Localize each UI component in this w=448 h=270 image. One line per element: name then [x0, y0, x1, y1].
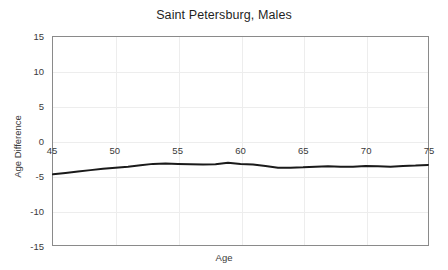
- x-axis-tick-labels: 45505560657075: [0, 0, 448, 270]
- x-tick-label: 75: [424, 145, 435, 156]
- y-axis-title: Age Difference: [12, 92, 23, 202]
- x-tick-label: 65: [298, 145, 309, 156]
- x-tick-label: 55: [172, 145, 183, 156]
- x-tick-label: 60: [235, 145, 246, 156]
- x-tick-label: 50: [110, 145, 121, 156]
- chart-container: Saint Petersburg, Males 151050-5-10-15 4…: [0, 0, 448, 270]
- x-tick-label: 45: [47, 145, 58, 156]
- x-axis-title: Age: [0, 252, 448, 263]
- x-tick-label: 70: [361, 145, 372, 156]
